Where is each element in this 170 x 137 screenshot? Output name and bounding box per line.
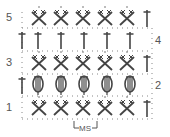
row-5 bbox=[32, 6, 151, 27]
repeat-label: MS bbox=[79, 125, 91, 133]
row-label-4: 4 bbox=[155, 35, 161, 46]
row-4 bbox=[19, 32, 134, 49]
row-label-5: 5 bbox=[6, 12, 12, 23]
row-1 bbox=[32, 96, 151, 117]
row-label-1: 1 bbox=[6, 102, 12, 113]
row-3 bbox=[32, 51, 151, 72]
row-label-2: 2 bbox=[155, 80, 161, 91]
row-2 bbox=[19, 76, 136, 95]
crochet-chart bbox=[0, 0, 170, 137]
row-label-3: 3 bbox=[6, 57, 12, 68]
